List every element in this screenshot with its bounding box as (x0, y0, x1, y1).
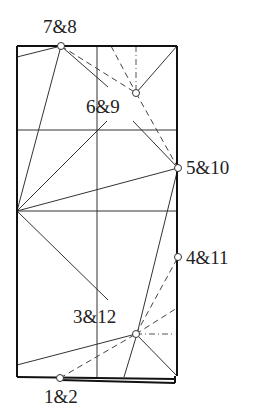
label-4-11: 4&11 (186, 248, 229, 267)
label-7-8: 7&8 (43, 17, 77, 36)
label-6-9: 6&9 (86, 97, 120, 116)
point-3-12 (133, 331, 140, 338)
point-6-9 (133, 90, 140, 97)
crease-pattern (0, 0, 256, 420)
point-7-8 (58, 43, 65, 50)
label-1-2: 1&2 (44, 387, 78, 406)
label-3-12: 3&12 (73, 307, 116, 326)
point-4-11 (175, 254, 182, 261)
point-1-2 (57, 375, 64, 382)
label-5-10: 5&10 (186, 158, 229, 177)
point-5-10 (175, 165, 182, 172)
